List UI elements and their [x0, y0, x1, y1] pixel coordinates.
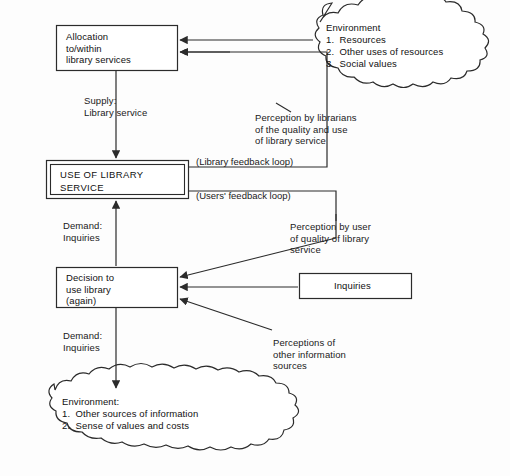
edge-label-supply: Supply: Library service — [84, 95, 147, 118]
edge-label-library-feedback-loop: (Library feedback loop) — [196, 156, 293, 168]
environment-top-cloud-label: Environment 1. Resources 2. Other uses o… — [326, 22, 443, 70]
edge-label-demand-lower: Demand: Inquiries — [63, 330, 102, 353]
edge-label-perception-librarians: Perception by librarians of the quality … — [255, 112, 357, 147]
allocation-box-label: Allocation to/within library services — [66, 31, 131, 66]
edge-library-feedback-loop — [180, 52, 327, 167]
edge-perceptions-other-to-decision — [180, 299, 272, 330]
decision-box-label: Decision to use library (again) — [66, 272, 114, 307]
inquiries-box-label: Inquiries — [334, 280, 371, 292]
edge-label-perception-user: Perception by user of quality of library… — [290, 221, 371, 256]
edge-label-perceptions-other: Perceptions of other information sources — [273, 337, 346, 372]
edge-label-users-feedback-loop: (Users' feedback loop) — [196, 190, 291, 202]
leader-perception-librarians — [276, 103, 291, 112]
environment-bottom-cloud-label: Environment: 1. Other sources of informa… — [62, 396, 198, 432]
diagram-canvas: Allocation to/within library services US… — [0, 0, 510, 476]
edge-label-demand-upper: Demand: Inquiries — [63, 220, 102, 243]
use-of-library-box-label: USE OF LIBRARY SERVICE — [60, 169, 143, 194]
